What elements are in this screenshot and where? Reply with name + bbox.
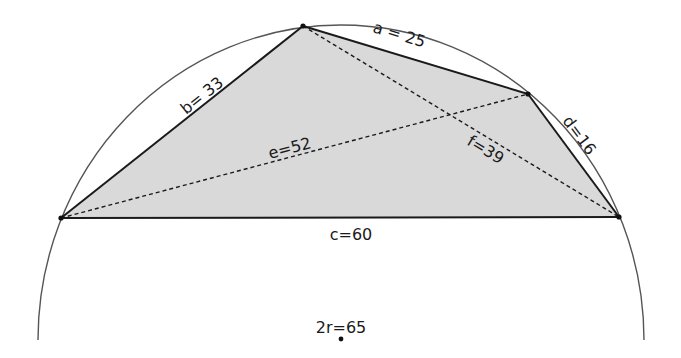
vertex-top [300, 23, 305, 28]
circle-center [339, 337, 344, 342]
quadrilateral-fill [61, 26, 619, 218]
vertex-right [616, 214, 621, 219]
vertex-left [58, 215, 63, 220]
vertex-upper-right [525, 91, 530, 96]
label-diameter: 2r=65 [316, 318, 367, 337]
label-c: c=60 [330, 225, 373, 244]
cyclic-quadrilateral-diagram: a = 25 b= 33 c=60 d=16 e=52 f=39 2r=65 [0, 0, 681, 358]
label-a: a = 25 [371, 18, 428, 52]
side-c [61, 217, 619, 218]
